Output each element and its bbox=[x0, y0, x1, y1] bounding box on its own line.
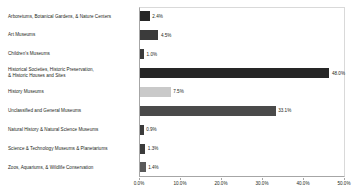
bar-rows: Arboretums, Botanical Gardens, & Nature … bbox=[0, 7, 358, 177]
category-label: Science & Technology Museums & Planetari… bbox=[8, 146, 134, 152]
axis-tick-label: 10.0% bbox=[173, 181, 186, 186]
axis-tick-label: 30.0% bbox=[255, 181, 268, 186]
bar bbox=[140, 30, 158, 40]
table-row: Unclassified and General Museums 33.1% bbox=[0, 101, 358, 120]
bar-container: 7.5% bbox=[140, 83, 345, 102]
bar-container: 4.5% bbox=[140, 26, 345, 45]
axis-tick bbox=[303, 178, 304, 180]
bar-container: 48.0% bbox=[140, 64, 345, 83]
bar bbox=[140, 162, 146, 172]
value-label: 33.1% bbox=[278, 108, 291, 113]
axis-tick bbox=[262, 178, 263, 180]
table-row: Science & Technology Museums & Planetari… bbox=[0, 139, 358, 158]
value-label: 1.0% bbox=[147, 52, 157, 57]
category-label: Natural History & Natural Science Museum… bbox=[8, 127, 134, 133]
bar bbox=[140, 49, 144, 59]
category-label: Zoos, Aquariums, & Wildlife Conservation bbox=[8, 165, 134, 171]
value-label: 1.3% bbox=[148, 146, 158, 151]
axis-tick bbox=[180, 178, 181, 180]
category-label: Historical Societies, Historic Preservat… bbox=[8, 67, 134, 79]
value-label: 1.4% bbox=[148, 165, 158, 170]
bar-container: 2.4% bbox=[140, 7, 345, 26]
axis-tick-label: 20.0% bbox=[214, 181, 227, 186]
table-row: Natural History & Natural Science Museum… bbox=[0, 120, 358, 139]
axis-tick bbox=[139, 178, 140, 180]
bar-container: 33.1% bbox=[140, 101, 345, 120]
axis-tick bbox=[221, 178, 222, 180]
category-label: History Museums bbox=[8, 89, 134, 95]
value-label: 0.9% bbox=[146, 127, 156, 132]
bar bbox=[140, 68, 329, 78]
bar-container: 1.0% bbox=[140, 45, 345, 64]
bar bbox=[140, 11, 150, 21]
table-row: Children's Museums 1.0% bbox=[0, 45, 358, 64]
axis-tick-label: 0.0% bbox=[134, 181, 144, 186]
bar-container: 1.3% bbox=[140, 139, 345, 158]
table-row: Arboretums, Botanical Gardens, & Nature … bbox=[0, 7, 358, 26]
axis-tick-label: 40.0% bbox=[296, 181, 309, 186]
category-label: Arboretums, Botanical Gardens, & Nature … bbox=[8, 14, 134, 20]
bar bbox=[140, 125, 144, 135]
horizontal-bar-chart: Arboretums, Botanical Gardens, & Nature … bbox=[0, 0, 358, 196]
value-label: 7.5% bbox=[173, 89, 183, 94]
table-row: Zoos, Aquariums, & Wildlife Conservation… bbox=[0, 158, 358, 177]
bar bbox=[140, 106, 276, 116]
value-label: 4.5% bbox=[161, 33, 171, 38]
x-axis: 0.0% 10.0% 20.0% 30.0% 40.0% 50.0% bbox=[139, 178, 345, 192]
bar-container: 0.9% bbox=[140, 120, 345, 139]
value-label: 48.0% bbox=[332, 71, 345, 76]
table-row: Historical Societies, Historic Preservat… bbox=[0, 64, 358, 83]
category-label: Children's Museums bbox=[8, 51, 134, 57]
table-row: Art Museums 4.5% bbox=[0, 26, 358, 45]
bar bbox=[140, 144, 145, 154]
value-label: 2.4% bbox=[152, 14, 162, 19]
axis-tick-label: 50.0% bbox=[337, 181, 350, 186]
category-label: Art Museums bbox=[8, 32, 134, 38]
table-row: History Museums 7.5% bbox=[0, 83, 358, 102]
category-label: Unclassified and General Museums bbox=[8, 108, 134, 114]
bar-container: 1.4% bbox=[140, 158, 345, 177]
bar bbox=[140, 87, 171, 97]
axis-tick bbox=[344, 178, 345, 180]
